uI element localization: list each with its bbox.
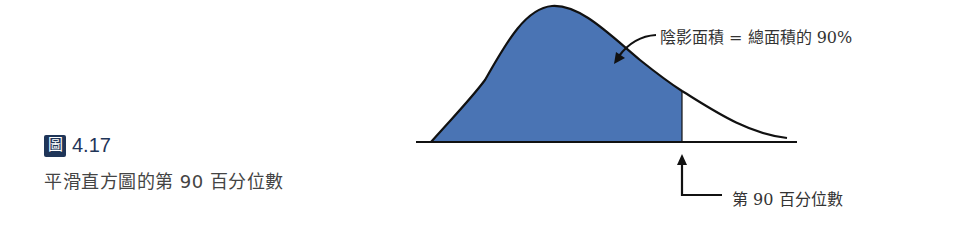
shaded-area [431,6,682,142]
percentile-label: 第 90 百分位數 [732,186,843,210]
percentile-arrow-icon [677,154,722,195]
shaded-area-label: 陰影面積 = 總面積的 90% [660,24,852,48]
